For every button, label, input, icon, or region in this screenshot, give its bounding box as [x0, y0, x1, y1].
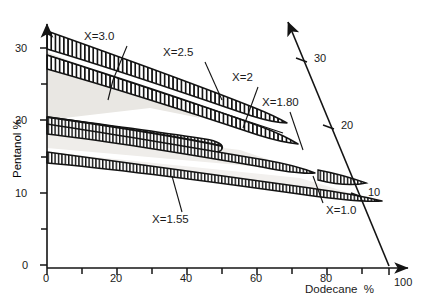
y-tick-label-30: 30: [15, 42, 27, 54]
y-axis-title-text: Pentanol: [11, 133, 23, 178]
y-tick-label-10: 10: [15, 187, 27, 199]
curve-label-x-2-5: X=2.5: [163, 46, 193, 58]
x-tick-label-40: 40: [180, 272, 192, 284]
curve-label-x-3-0: X=3.0: [84, 30, 114, 42]
curve-label-x-1-55: X=1.55: [152, 213, 189, 225]
x-axis-title-text: Dodecane: [305, 283, 357, 295]
diagonal-tick-label-20: 20: [341, 119, 353, 131]
x-tick-label-20: 20: [110, 272, 122, 284]
curve-label-x-1-80: X=1.80: [262, 96, 299, 108]
curve-label-x-2: X=2: [232, 71, 253, 83]
x-axis-title: Dodecane %: [305, 283, 374, 295]
x-tick-label-0: 0: [43, 272, 49, 284]
x-axis-unit: %: [364, 283, 374, 295]
diagonal-tick-label-10: 10: [368, 186, 380, 198]
curve-label-x-1-0: X=1.0: [326, 204, 356, 216]
x-tick-label-100: 100: [394, 276, 412, 288]
y-axis-unit: %: [11, 119, 23, 129]
y-tick-label-0: 0: [22, 259, 28, 271]
y-axis-title: Pentanol %: [11, 119, 23, 178]
diagonal-tick-label-30: 30: [314, 52, 326, 64]
phase-diagram-figure: [0, 0, 431, 300]
x-tick-label-60: 60: [250, 272, 262, 284]
